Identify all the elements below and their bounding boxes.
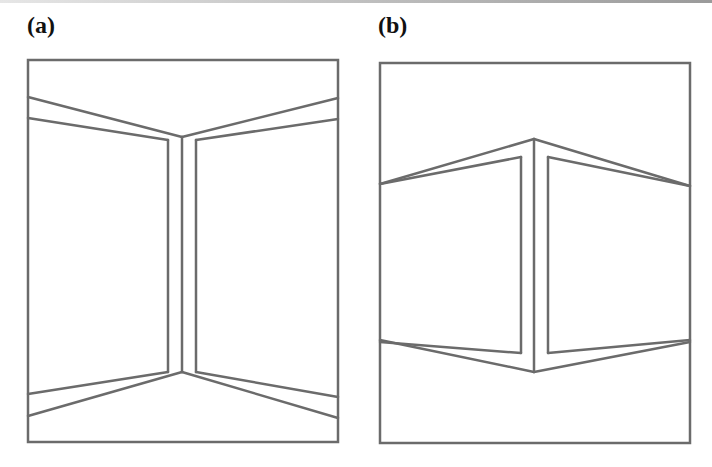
perspective-line [28, 372, 182, 416]
perspective-diagram [0, 0, 712, 467]
perspective-line [548, 157, 690, 186]
perspective-line [196, 372, 338, 397]
perspective-line [380, 139, 534, 184]
perspective-line [534, 139, 690, 186]
perspective-line [380, 342, 521, 353]
panel-b-outside-corner [380, 63, 690, 443]
perspective-line [380, 157, 521, 184]
perspective-line [196, 119, 338, 140]
perspective-line [182, 372, 338, 418]
panel-a-inside-corner [28, 60, 338, 442]
